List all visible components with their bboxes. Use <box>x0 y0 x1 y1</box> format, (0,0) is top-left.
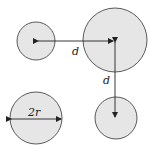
label-diameter: 2r <box>27 106 41 119</box>
label-horizontal-d: d <box>72 45 79 58</box>
diagram-canvas: d d 2r <box>0 0 155 154</box>
label-vertical-d: d <box>103 74 110 87</box>
circle-bottom-right <box>95 97 137 139</box>
